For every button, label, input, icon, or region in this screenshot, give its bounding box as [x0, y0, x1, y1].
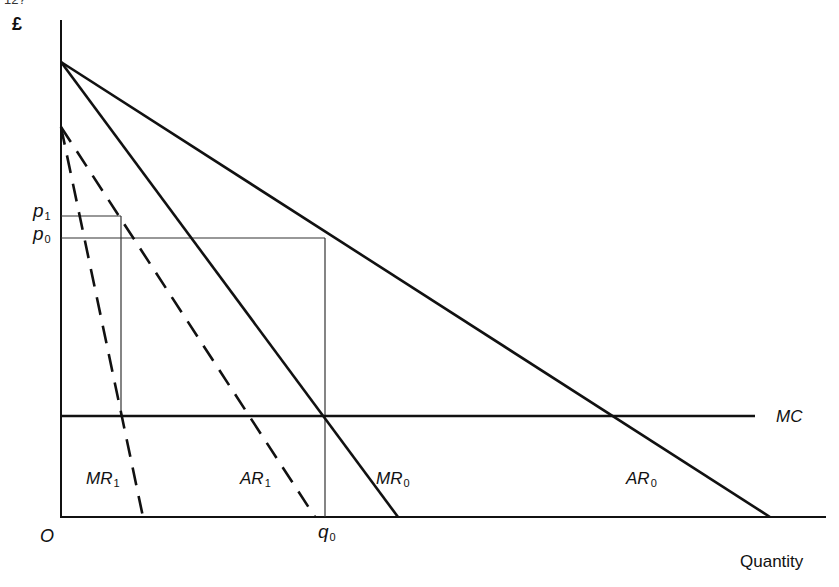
origin-label: O	[40, 527, 54, 545]
mr0-sub: 0	[403, 477, 409, 489]
q0-tick-label: q0	[318, 522, 336, 541]
p0-main: p	[33, 223, 44, 244]
mr0-curve	[61, 62, 398, 517]
q0-main: q	[318, 521, 329, 542]
ar0-curve	[61, 62, 770, 517]
ar0-main: AR	[626, 469, 650, 488]
ar0-label: AR0	[626, 470, 657, 487]
x-axis-label: Quantity	[740, 553, 803, 570]
mr0-label: MR0	[376, 470, 410, 487]
q0-sub: 0	[330, 531, 336, 543]
mc-label: MC	[776, 408, 802, 425]
monopoly-revenue-cost-diagram	[0, 0, 839, 587]
mr0-main: MR	[376, 469, 402, 488]
p0-tick-label: p0	[33, 224, 51, 243]
ar0-sub: 0	[651, 477, 657, 489]
p1-tick-label: p1	[33, 201, 51, 220]
ar1-sub: 1	[265, 477, 271, 489]
ar1-label: AR1	[240, 470, 271, 487]
mr1-main: MR	[86, 469, 112, 488]
mr1-label: MR1	[86, 470, 120, 487]
mr1-curve	[61, 127, 143, 517]
y-axis-label: £	[12, 15, 22, 33]
ar1-main: AR	[240, 469, 264, 488]
p0-sub: 0	[45, 233, 51, 245]
mc-main: MC	[776, 407, 802, 426]
mr1-sub: 1	[113, 477, 119, 489]
p1-main: p	[33, 200, 44, 221]
p1-sub: 1	[45, 210, 51, 222]
ar1-curve	[61, 127, 315, 517]
